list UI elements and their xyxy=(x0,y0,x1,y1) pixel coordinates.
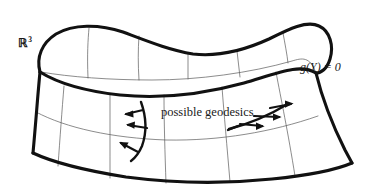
label-r3: ℝ3 xyxy=(18,36,32,49)
label-r3-exponent: 3 xyxy=(28,35,32,44)
surface-body xyxy=(33,24,352,183)
figure-canvas: ℝ3 g(Y) = 0 possible geodesics xyxy=(0,0,366,188)
label-r3-symbol: ℝ xyxy=(18,37,28,49)
label-possible-geodesics: possible geodesics xyxy=(161,106,254,119)
saddle-surface-diagram xyxy=(0,0,366,188)
label-constraint-equation: g(Y) = 0 xyxy=(300,61,341,73)
surface-fill xyxy=(33,24,352,183)
